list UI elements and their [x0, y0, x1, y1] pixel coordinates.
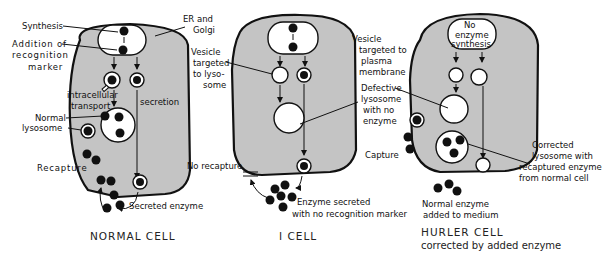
- vesicle-targeted-lysosome: [272, 67, 288, 83]
- label-enzyme-secreted: Enzyme secreted: [297, 197, 370, 207]
- label-er-and: ER and: [183, 14, 213, 24]
- label-targeted: targeted: [193, 58, 229, 68]
- label-no-recognition-marker: with no recognition marker: [292, 209, 407, 219]
- panel-title-normal: NORMAL CELL: [90, 230, 176, 242]
- panel-title-i-cell: I CELL: [279, 230, 317, 242]
- label-normal: Normal: [35, 113, 66, 123]
- label-plasma: plasma: [361, 56, 392, 66]
- label-vesicle: Vesicle: [191, 47, 220, 57]
- label-intracellular: intracellular: [67, 90, 118, 100]
- label-transport: transport: [71, 101, 111, 111]
- label-synthesis: Synthesis: [22, 21, 64, 31]
- label-golgi: Golgi: [193, 25, 215, 35]
- enzyme-dot-marked: [119, 46, 128, 55]
- label-secretion: secretion: [140, 97, 179, 107]
- panel-subtitle-hurler: corrected by added enzyme: [421, 240, 561, 251]
- label-synthesis-h: synthesis: [451, 39, 492, 49]
- label-secreted-enzyme: Secreted enzyme: [129, 201, 203, 211]
- panel-title-hurler: HURLER CELL: [421, 226, 504, 238]
- label-enzyme: enzyme: [363, 116, 397, 126]
- label-to-lyso: to lyso-: [193, 69, 224, 79]
- label-capture: Capture: [365, 150, 399, 160]
- label-no-recapture: No recapture: [187, 161, 242, 171]
- label-recapture: Recapture: [37, 163, 88, 173]
- label-lysosome-with: lysosome with: [532, 151, 593, 161]
- defective-lysosome: [274, 103, 304, 133]
- panel-i-cell: ER and Golgi Vesicle targeted to lyso- s…: [183, 14, 407, 242]
- enzyme-dot: [120, 27, 129, 36]
- label-membrane: membrane: [359, 67, 406, 77]
- label-addition-of: Addition of: [12, 39, 67, 49]
- label-lysosome: lysosome: [22, 123, 62, 133]
- label-marker: marker: [28, 62, 63, 72]
- corrected-lysosome: [436, 131, 468, 163]
- label-with-no: with no: [363, 105, 394, 115]
- defective-lysosome-hurler: [440, 95, 468, 123]
- label-targeted-to: targeted to: [359, 45, 407, 55]
- label-lysosome-i: lysosome: [361, 94, 401, 104]
- label-added-to-medium: added to medium: [423, 210, 499, 220]
- label-vesicle-pm: Vesicle: [352, 34, 381, 44]
- label-from-normal-cell: from normal cell: [519, 173, 589, 183]
- label-no: No: [464, 20, 476, 30]
- label-normal-enzyme: Normal enzyme: [422, 199, 489, 209]
- label-corrected: Corrected: [532, 140, 574, 150]
- lysosomal-enzyme-diagram: Synthesis Addition of recognition marker…: [0, 0, 604, 259]
- panel-normal-cell: Synthesis Addition of recognition marker…: [12, 21, 203, 242]
- label-recognition: recognition: [12, 50, 69, 60]
- label-recaptured-enzyme: recaptured enzyme: [519, 162, 602, 172]
- label-some: some: [203, 80, 226, 90]
